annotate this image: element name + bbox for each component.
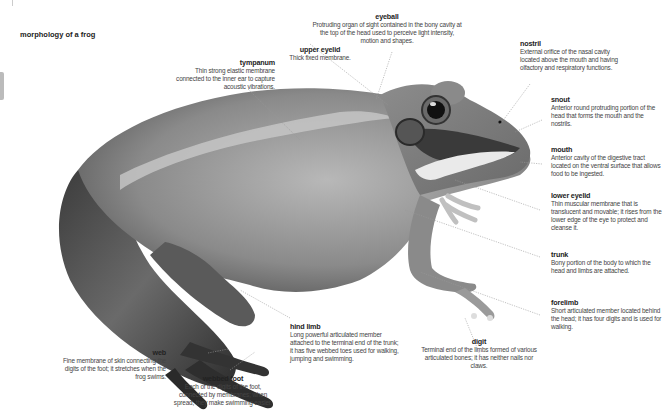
label-forelimb: forelimb Short articulated member locate…	[551, 298, 663, 331]
label-eyeball: eyeball Protruding organ of sight contai…	[312, 12, 462, 45]
term-tympanum: tympanum	[175, 58, 275, 67]
term-digit: digit	[420, 337, 538, 346]
desc-tympanum: Thin strong elastic membrane connected t…	[175, 67, 275, 91]
term-lower-eyelid: lower eyelid	[551, 191, 663, 200]
desc-digit: Terminal end of the limbs formed of vari…	[420, 346, 538, 370]
desc-nostril: External orifice of the nasal cavity loc…	[520, 48, 626, 72]
desc-lower-eyelid: Thin muscular membrane that is transluce…	[551, 200, 663, 232]
term-web: web	[58, 348, 166, 357]
term-webbed-foot: webbed foot	[172, 374, 274, 383]
desc-snout: Anterior round protruding portion of the…	[551, 104, 659, 128]
term-nostril: nostril	[520, 39, 626, 48]
forelimb-shape	[408, 195, 476, 293]
term-eyeball: eyeball	[312, 12, 462, 21]
label-hind-limb: hind limb Long powerful articulated memb…	[290, 322, 402, 363]
term-trunk: trunk	[551, 250, 663, 259]
desc-upper-eyelid: Thick fixed membrane.	[270, 54, 370, 62]
label-mouth: mouth Anterior cavity of the digestive t…	[551, 145, 663, 178]
label-upper-eyelid: upper eyelid Thick fixed membrane.	[270, 45, 370, 62]
term-hind-limb: hind limb	[290, 322, 402, 331]
desc-mouth: Anterior cavity of the digestive tract l…	[551, 154, 663, 178]
label-web: web Fine membrane of skin connecting the…	[58, 348, 166, 381]
tympanum-shape	[396, 119, 424, 145]
desc-trunk: Bony portion of the body to which the he…	[551, 259, 663, 275]
label-webbed-foot: webbed foot Each of the digits of the fo…	[172, 374, 274, 407]
label-lower-eyelid: lower eyelid Thin muscular membrane that…	[551, 191, 663, 232]
desc-hind-limb: Long powerful articulated member attache…	[290, 331, 402, 363]
label-nostril: nostril External orifice of the nasal ca…	[520, 39, 626, 72]
desc-eyeball: Protruding organ of sight contained in t…	[312, 21, 462, 45]
term-forelimb: forelimb	[551, 298, 663, 307]
label-snout: snout Anterior round protruding portion …	[551, 95, 659, 128]
desc-webbed-foot: Each of the digits of the foot, connecte…	[172, 383, 274, 407]
desc-web: Fine membrane of skin connecting the dig…	[58, 357, 166, 381]
term-snout: snout	[551, 95, 659, 104]
label-digit: digit Terminal end of the limbs formed o…	[420, 337, 538, 370]
label-tympanum: tympanum Thin strong elastic membrane co…	[175, 58, 275, 91]
label-trunk: trunk Bony portion of the body to which …	[551, 250, 663, 275]
desc-forelimb: Short articulated member located behind …	[551, 307, 663, 331]
term-upper-eyelid: upper eyelid	[270, 45, 370, 54]
term-mouth: mouth	[551, 145, 663, 154]
